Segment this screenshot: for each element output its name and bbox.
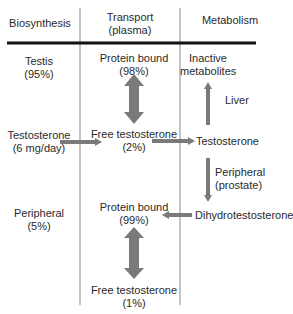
diagram-graphics [0,0,293,314]
label-protein-bound-98: Protein bound(98%) [84,52,184,78]
arrow-down-icon-peripheral [204,158,212,202]
label-testosterone-metabolism: Testosterone [196,135,259,148]
label-inactive-metabolites: Inactivemetabolites [180,52,236,78]
header-biosynthesis: Biosynthesis [0,17,80,30]
label-testis: Testis(95%) [0,55,78,81]
arrow-up-icon-liver [204,82,212,125]
label-peripheral-biosynthesis: Peripheral(5%) [0,207,78,233]
label-free-testosterone-2: Free testosterone(2%) [84,128,184,154]
label-protein-bound-99: Protein bound(99%) [84,201,184,227]
label-peripheral-prostate: Peripheral(prostate) [215,166,265,192]
header-metabolism: Metabolism [180,14,280,27]
label-free-testosterone-1: Free testosterone(1%) [84,284,184,310]
header-transport: Transport(plasma) [80,11,180,37]
double-arrow-icon-top [124,74,144,124]
label-liver: Liver [225,94,249,107]
label-testosterone-production: Testosterone(6 mg/day) [0,129,78,155]
double-arrow-icon-bottom [124,227,144,279]
label-dihydrotestosterone: Dihydrotestosterone [195,209,293,222]
